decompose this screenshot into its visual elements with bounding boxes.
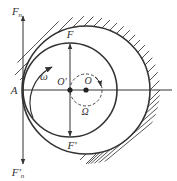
- label-O-prime: O': [57, 76, 67, 87]
- label-omega: ω: [40, 70, 48, 82]
- point-O-prime: [67, 87, 72, 92]
- label-Fn-bottom: F'n: [11, 166, 25, 180]
- label-O: O: [84, 75, 91, 86]
- label-F-prime: F': [66, 139, 77, 151]
- label-Fn-top: Fn: [11, 5, 23, 19]
- journal-bearing-diagram: Fn F'n F F' A O' O ω Ω: [0, 0, 177, 181]
- label-A: A: [10, 84, 18, 96]
- label-F: F: [66, 28, 74, 40]
- label-Omega: Ω: [81, 106, 88, 117]
- point-O: [83, 87, 88, 92]
